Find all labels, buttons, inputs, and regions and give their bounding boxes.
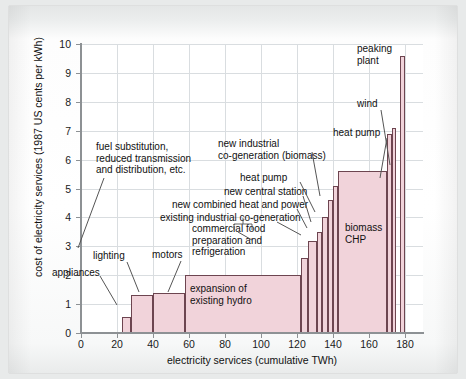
chart-screenshot: 012345678910 020406080100120140160180 el… bbox=[0, 0, 466, 379]
leader-line bbox=[300, 182, 315, 212]
leader-line bbox=[312, 152, 320, 196]
leader-line bbox=[100, 276, 117, 305]
bracket-marker bbox=[234, 218, 252, 230]
leader-line bbox=[168, 261, 181, 292]
leader-lines bbox=[9, 6, 457, 373]
leader-line bbox=[297, 209, 307, 228]
leader-line bbox=[238, 232, 252, 240]
leader-line bbox=[78, 178, 104, 248]
leader-line bbox=[381, 110, 390, 165]
leader-line bbox=[303, 196, 311, 222]
leader-line bbox=[127, 262, 139, 292]
scanned-figure-page: 012345678910 020406080100120140160180 el… bbox=[9, 6, 457, 373]
leader-line bbox=[380, 138, 387, 178]
leader-line bbox=[277, 222, 301, 235]
